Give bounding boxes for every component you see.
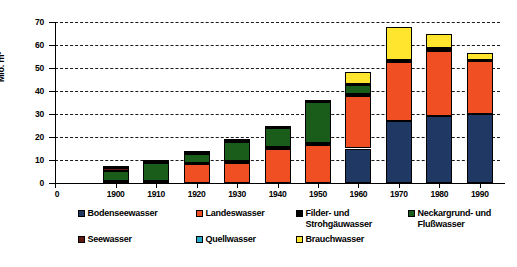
bar-segment [265, 149, 291, 184]
x-axis-tick-label: 1930 [217, 190, 257, 199]
bar-segment [426, 116, 452, 183]
bar-segment [103, 171, 129, 181]
x-axis-tick [278, 183, 279, 188]
bar-segment [305, 145, 331, 183]
x-axis-origin-tick [55, 183, 56, 188]
bar-segment [224, 139, 250, 141]
bar-segment [305, 102, 331, 143]
y-axis-tick [49, 22, 56, 23]
legend-item-label: Bodenseewasser [88, 208, 158, 219]
bar-segment [184, 154, 210, 163]
bar-segment [265, 147, 291, 149]
bar-segment [345, 84, 371, 86]
x-axis-tick-label: 1940 [258, 190, 298, 199]
y-axis-tick-label: 60 [14, 41, 44, 50]
x-axis-tick-label: 1970 [379, 190, 419, 199]
legend-item-label: Landeswasser [206, 208, 265, 219]
legend-swatch-icon [196, 210, 203, 217]
legend: BodenseewasserLandeswasserFilder- und St… [78, 208, 508, 260]
legend-swatch-icon [296, 236, 303, 243]
bar-segment [345, 72, 371, 84]
bar-segment [103, 166, 129, 168]
bar-segment [467, 53, 493, 60]
bar-segment [224, 163, 250, 183]
bar-segment [184, 151, 210, 153]
x-axis-tick [358, 183, 359, 188]
x-axis-tick-label: 1950 [298, 190, 338, 199]
bar-segment [426, 51, 452, 117]
x-axis-tick [399, 183, 400, 188]
bar-segment [345, 85, 371, 94]
x-axis-tick-label: 1920 [177, 190, 217, 199]
bar-column [345, 22, 371, 183]
y-axis-tick-label: 30 [14, 110, 44, 119]
bar-column [184, 22, 210, 183]
legend-swatch-icon [78, 210, 85, 217]
y-axis-tick-label: 20 [14, 133, 44, 142]
x-axis-tick-label: 1980 [419, 190, 459, 199]
legend-item: Bodenseewasser [78, 208, 158, 219]
bar-segment [103, 168, 129, 171]
legend-item-label: Quellwasser [206, 234, 256, 245]
y-axis-tick-label: 70 [14, 18, 44, 27]
y-axis-tick-label: 10 [14, 156, 44, 165]
x-axis-tick [480, 183, 481, 188]
bar-segment [386, 62, 412, 121]
bar-column [143, 22, 169, 183]
y-axis-tick [49, 45, 56, 46]
bar-segment [345, 94, 371, 96]
x-axis-tick-label: 1960 [338, 190, 378, 199]
bar-segment [345, 96, 371, 149]
bar-segment [386, 121, 412, 183]
bar-segment [467, 114, 493, 183]
x-axis-origin-label: 0 [37, 190, 77, 199]
bar-column [305, 22, 331, 183]
legend-item-label: Seewasser [88, 234, 132, 245]
legend-item: Neckargrund- und Flußwasser [408, 208, 491, 229]
x-axis-tick-label: 1910 [136, 190, 176, 199]
y-axis-tick-label: 50 [14, 64, 44, 73]
bar-column [426, 22, 452, 183]
bar-segment [143, 163, 169, 181]
bar-column [386, 22, 412, 183]
legend-swatch-icon [78, 236, 85, 243]
bar-segment [305, 143, 331, 145]
bar-segment [224, 142, 250, 162]
x-axis-line [55, 183, 505, 184]
bar-column [224, 22, 250, 183]
plot-area [55, 22, 500, 183]
chart-figure: Mio. m³ 010203040506070 0190019101920193… [0, 0, 517, 267]
bar-segment [265, 126, 291, 128]
bar-segment [386, 60, 412, 62]
legend-item: Brauchwasser [296, 234, 364, 245]
bar-column [467, 22, 493, 183]
x-axis-tick [116, 183, 117, 188]
legend-item-label: Brauchwasser [306, 234, 365, 245]
bar-segment [467, 61, 493, 114]
x-axis-tick [237, 183, 238, 188]
bar-segment [426, 48, 452, 51]
legend-item: Seewasser [78, 234, 132, 245]
bar-segment [265, 128, 291, 146]
bar-segment [143, 160, 169, 162]
x-axis-tick-label: 1990 [460, 190, 500, 199]
legend-item-label: Neckargrund- und Flußwasser [418, 208, 492, 229]
y-axis-tick [49, 91, 56, 92]
bar-column [103, 22, 129, 183]
legend-item: Landeswasser [196, 208, 265, 219]
bar-segment [224, 161, 250, 163]
y-axis-tick [49, 137, 56, 138]
bar-segment [305, 100, 331, 102]
y-axis-title: Mio. m³ [0, 52, 6, 82]
y-axis-tick [49, 68, 56, 69]
bar-segment [386, 27, 412, 60]
legend-item: Filder- und Strohgäuwasser [296, 208, 372, 229]
bar-segment [467, 60, 493, 62]
legend-item: Quellwasser [196, 234, 256, 245]
bar-column [265, 22, 291, 183]
legend-item-label: Filder- und Strohgäuwasser [306, 208, 373, 229]
legend-swatch-icon [296, 210, 303, 217]
x-axis-tick-label: 1900 [96, 190, 136, 199]
x-axis-tick [439, 183, 440, 188]
bar-segment [184, 163, 210, 165]
